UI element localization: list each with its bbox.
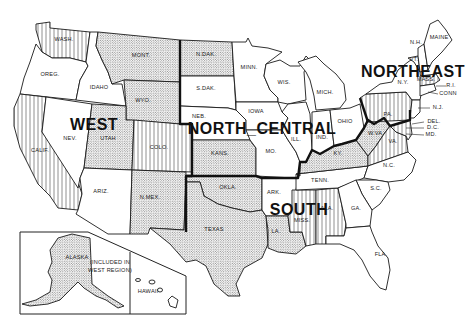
state-label: GA. bbox=[351, 205, 361, 211]
inset-note-line2: WEST REGION) bbox=[88, 267, 132, 273]
state-label: MINN. bbox=[241, 64, 258, 70]
state-new-jersey[interactable] bbox=[410, 100, 420, 118]
region-label-northeast: NORTHEAST bbox=[361, 63, 465, 80]
state-south-dakota[interactable] bbox=[180, 76, 236, 110]
state-label: N.DAK. bbox=[196, 51, 216, 57]
state-label: PA. bbox=[383, 111, 392, 117]
state-label: WYO. bbox=[135, 97, 151, 103]
state-label: TEXAS bbox=[204, 226, 223, 232]
state-label: CALIF. bbox=[31, 147, 49, 153]
region-label-west: WEST bbox=[70, 116, 118, 133]
state-label: IOWA bbox=[248, 108, 264, 114]
state-label: NEB. bbox=[192, 113, 206, 119]
state-label: ALASKA bbox=[66, 254, 89, 260]
state-label: S.C. bbox=[370, 185, 382, 191]
state-label: N.H. bbox=[410, 39, 422, 45]
state-pennsylvania[interactable] bbox=[360, 92, 412, 122]
state-label: VT. bbox=[410, 56, 419, 62]
census-regions-map: (INCLUDED IN WEST REGION) WASH.OREG.CALI… bbox=[0, 0, 471, 328]
state-new-mexico[interactable] bbox=[130, 170, 186, 234]
state-label: MAINE bbox=[430, 34, 449, 40]
state-arizona[interactable] bbox=[76, 168, 132, 234]
state-kansas[interactable] bbox=[192, 140, 256, 176]
region-label-north_central: NORTH_CENTRAL bbox=[188, 120, 337, 137]
state-connecticut-ri[interactable] bbox=[420, 84, 436, 96]
leader-label: N.J. bbox=[433, 104, 444, 110]
state-label: KY. bbox=[334, 150, 343, 156]
state-florida[interactable] bbox=[326, 226, 390, 290]
leader-label: D.C. bbox=[427, 124, 439, 130]
state-label: TENN. bbox=[311, 177, 329, 183]
state-label: IDAHO bbox=[90, 84, 109, 90]
state-label: COLO. bbox=[150, 144, 169, 150]
state-label: OHIO bbox=[337, 118, 353, 124]
state-label: WASH. bbox=[54, 36, 73, 42]
state-label: ARK. bbox=[267, 189, 281, 195]
inset-note-line1: (INCLUDED IN bbox=[90, 259, 130, 265]
state-label: W.VA. bbox=[368, 130, 384, 136]
leader-label: CONN bbox=[439, 90, 456, 96]
state-label: HAWAII bbox=[138, 288, 159, 294]
state-label: VA. bbox=[388, 138, 397, 144]
state-label: MO. bbox=[265, 148, 276, 154]
state-label: N.C. bbox=[383, 162, 395, 168]
state-label: OKLA. bbox=[219, 184, 237, 190]
state-label: WIS. bbox=[278, 79, 291, 85]
inset-alaska-hawaii: (INCLUDED IN WEST REGION) bbox=[20, 232, 186, 314]
leader-label: MD. bbox=[426, 131, 437, 137]
state-label: MICH. bbox=[317, 89, 334, 95]
leader-label: R.I. bbox=[446, 82, 456, 88]
state-north-dakota[interactable] bbox=[180, 40, 234, 76]
state-label: FLA. bbox=[375, 251, 388, 257]
state-label: KANS. bbox=[211, 150, 229, 156]
state-label: N.MEX. bbox=[140, 194, 161, 200]
state-wyoming[interactable] bbox=[124, 80, 180, 124]
state-label: UTAH bbox=[100, 135, 116, 141]
state-label: ARIZ. bbox=[93, 188, 109, 194]
state-label: S.DAK. bbox=[196, 85, 216, 91]
state-label: LA. bbox=[272, 228, 281, 234]
state-label: NEV. bbox=[63, 135, 77, 141]
state-label: OREG. bbox=[40, 71, 59, 77]
region-label-south: SOUTH bbox=[270, 201, 329, 218]
state-label: MONT. bbox=[132, 52, 151, 58]
